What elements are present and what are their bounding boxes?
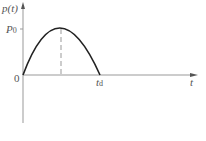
peak-value-label: P0 [6,24,17,35]
pulse-diagram [0,0,206,141]
duration-label: td [96,77,103,88]
peak-label-sub: 0 [13,26,17,35]
pulse-curve [23,28,100,75]
x-axis-label: t [190,77,193,88]
peak-label-main: P [6,23,13,35]
y-axis-label: p(t) [2,3,18,14]
duration-label-sub: d [99,79,103,88]
origin-label: 0 [14,73,20,84]
y-axis-arrow-icon [21,2,25,9]
